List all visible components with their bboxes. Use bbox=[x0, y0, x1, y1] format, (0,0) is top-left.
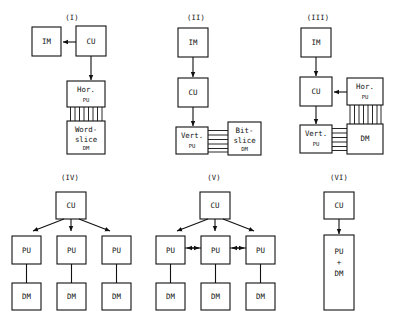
panel-3-hor-pu-box: Hor. PU bbox=[347, 78, 383, 105]
panel-4-pu-box-2: PU bbox=[57, 236, 86, 264]
panel-4: (IV) CU PU PU PU DM bbox=[12, 173, 131, 310]
panel-4-dm-label-2: DM bbox=[67, 292, 76, 301]
panel-1-im-label: IM bbox=[42, 37, 51, 46]
panel-6-cu-box: CU bbox=[324, 192, 354, 219]
panel-5-dm-label-1: DM bbox=[166, 292, 175, 301]
panel-2: (II) IM CU Vert. PU bbox=[176, 13, 261, 155]
panel-6-pu-dm-box: PU + DM bbox=[324, 235, 354, 310]
panel-3-vert-pu-label: PU bbox=[313, 141, 320, 147]
panel-2-vert-label: Vert. bbox=[181, 131, 203, 140]
panel-3-roman-label: (III) bbox=[307, 13, 330, 22]
panel-1-cu-label: CU bbox=[87, 37, 96, 46]
panel-6-plus-label: + bbox=[337, 258, 342, 267]
panel-2-roman-label: (II) bbox=[187, 13, 205, 22]
panel-5-pu-box-1: PU bbox=[156, 236, 185, 264]
panel-5-dm-label-3: DM bbox=[256, 292, 265, 301]
panel-3: (III) IM CU Hor. PU bbox=[300, 13, 383, 154]
panel-2-im-box: IM bbox=[178, 28, 208, 57]
panel-1-hor-pu-label: PU bbox=[83, 97, 90, 103]
panel-4-dm-box-3: DM bbox=[102, 283, 131, 310]
panel-1-word-label-1: Word- bbox=[75, 125, 97, 134]
panel-4-dm-box-1: DM bbox=[12, 283, 41, 310]
panel-2-cu-label: CU bbox=[189, 88, 198, 97]
panel-2-vert-pu-label: PU bbox=[189, 143, 196, 149]
panel-4-pu-box-3: PU bbox=[102, 236, 131, 264]
panel-2-vert-pu-box: Vert. PU bbox=[176, 127, 208, 154]
panel-3-vert-pu-to-dm-bus bbox=[332, 129, 347, 151]
architecture-taxonomy-diagram: (I) IM CU Hor. PU bbox=[0, 0, 393, 327]
panel-5-dm-box-2: DM bbox=[201, 283, 230, 310]
panel-1-roman-label: (I) bbox=[65, 13, 79, 22]
panel-5-pu-box-2: PU bbox=[201, 236, 230, 264]
panel-5-dm-label-2: DM bbox=[211, 292, 220, 301]
panel-3-cu-label: CU bbox=[312, 87, 321, 96]
panel-4-dm-label-3: DM bbox=[112, 292, 121, 301]
panel-3-cu-box: CU bbox=[300, 77, 332, 106]
panel-1-word-dm-label: DM bbox=[83, 145, 90, 151]
panel-2-bit-label-1: Bit- bbox=[236, 126, 254, 135]
panel-3-dm-box: DM bbox=[347, 124, 383, 154]
panel-1-hor-label: Hor. bbox=[77, 85, 95, 94]
panel-5-cu-to-pu3-arrow bbox=[223, 219, 254, 231]
panel-1: (I) IM CU Hor. PU bbox=[32, 13, 106, 154]
panel-4-cu-box: CU bbox=[56, 192, 86, 219]
panel-3-hor-pu-label: PU bbox=[362, 94, 369, 100]
panel-1-word-label-2: slice bbox=[75, 135, 98, 144]
panel-4-cu-label: CU bbox=[67, 201, 76, 210]
panel-4-dm-box-2: DM bbox=[57, 283, 86, 310]
panel-4-cu-to-pu1-arrow bbox=[33, 219, 64, 231]
panel-6-pu-label: PU bbox=[335, 247, 344, 256]
panel-3-hor-label: Hor. bbox=[356, 82, 374, 91]
panel-2-cu-box: CU bbox=[178, 78, 208, 107]
panel-4-pu-label-1: PU bbox=[22, 246, 31, 255]
panel-6-dm-label: DM bbox=[335, 269, 344, 278]
panel-4-pu-label-2: PU bbox=[67, 246, 76, 255]
panel-5-roman-label: (V) bbox=[207, 173, 221, 182]
panel-5-dm-box-3: DM bbox=[246, 283, 275, 310]
panel-1-im-box: IM bbox=[32, 27, 61, 56]
panel-3-vert-pu-box: Vert. PU bbox=[300, 125, 332, 153]
panel-4-pu-label-3: PU bbox=[112, 246, 121, 255]
panel-4-pu-box-1: PU bbox=[12, 236, 41, 264]
panel-2-bit-label-2: slice bbox=[233, 136, 256, 145]
panel-3-im-box: IM bbox=[301, 28, 331, 57]
panel-1-word-slice-dm-box: Word- slice DM bbox=[67, 121, 105, 154]
panel-6: (VI) CU PU + DM bbox=[324, 173, 354, 310]
panel-5-pu-label-2: PU bbox=[211, 246, 220, 255]
panel-5-cu-to-pu1-arrow bbox=[177, 219, 208, 231]
panel-4-dm-label-1: DM bbox=[22, 292, 31, 301]
panel-5-pu-label-3: PU bbox=[256, 246, 265, 255]
panel-3-im-label: IM bbox=[312, 38, 321, 47]
panel-2-im-label: IM bbox=[189, 38, 198, 47]
panel-4-roman-label: (IV) bbox=[61, 173, 79, 182]
panel-6-roman-label: (VI) bbox=[330, 173, 348, 182]
figure-canvas: (I) IM CU Hor. PU bbox=[0, 0, 393, 327]
panel-1-hor-pu-box: Hor. PU bbox=[67, 81, 105, 107]
panel-5-cu-box: CU bbox=[200, 192, 230, 219]
panel-5: (V) CU PU PU PU bbox=[156, 173, 275, 310]
panel-3-hor-pu-to-dm-bus bbox=[350, 105, 381, 124]
panel-2-bit-dm-label: DM bbox=[241, 146, 248, 152]
panel-3-dm-label: DM bbox=[361, 134, 370, 143]
panel-1-hor-pu-to-dm-bus bbox=[71, 107, 103, 121]
panel-6-cu-label: CU bbox=[335, 201, 344, 210]
panel-3-vert-label: Vert. bbox=[305, 129, 327, 138]
panel-5-pu-box-3: PU bbox=[246, 236, 275, 264]
panel-4-cu-to-pu3-arrow bbox=[79, 219, 110, 231]
panel-2-vert-pu-to-dm-bus bbox=[208, 131, 228, 153]
panel-5-cu-label: CU bbox=[211, 201, 220, 210]
panel-1-cu-box: CU bbox=[76, 26, 106, 56]
panel-5-dm-box-1: DM bbox=[156, 283, 185, 310]
panel-5-pu-label-1: PU bbox=[166, 246, 175, 255]
panel-2-bit-slice-dm-box: Bit- slice DM bbox=[228, 122, 261, 155]
